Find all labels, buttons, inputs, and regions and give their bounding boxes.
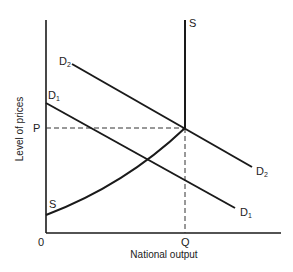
price-label: P — [33, 122, 40, 134]
d2-start-label: D2 — [59, 55, 71, 68]
quantity-label: Q — [181, 236, 190, 248]
demand-curve-d1 — [46, 103, 235, 208]
d1-start-label: D1 — [48, 89, 60, 102]
supply-bottom-label: S — [49, 198, 56, 210]
supply-top-label: S — [189, 17, 196, 29]
origin-label: 0 — [38, 236, 44, 248]
ad-as-diagram: S S D2 D1 D2 D1 P 0 Q National output Le… — [0, 0, 293, 272]
demand-curve-d2 — [72, 64, 252, 167]
d1-end-label: D1 — [240, 206, 252, 219]
d2-end-label: D2 — [256, 165, 268, 178]
y-axis-title: Level of prices — [14, 97, 25, 161]
x-axis-title: National output — [130, 249, 197, 260]
